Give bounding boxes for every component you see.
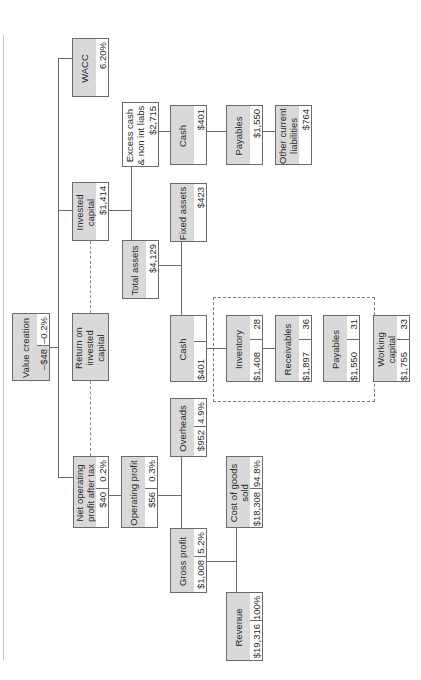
node-value: $56 [145,489,158,528]
connector [263,131,275,132]
node-other-current-liabilities: Other current liabilities $764 [275,105,312,165]
node-label: Operating profit [122,457,145,528]
connector [50,347,58,348]
node-value: $40 [96,489,109,528]
page-edge-line [3,35,4,660]
connector [159,131,170,132]
node-label: Invested capital [73,183,96,241]
node-label: Value creation [13,314,37,381]
connector [236,528,237,592]
node-days: 36 [299,316,312,340]
node-nopat: Net operating profit after tax $400.2% [73,456,109,528]
connector [58,477,73,478]
node-label: Inventory [227,316,250,382]
node-wacc: WACC 6.20% [72,38,109,97]
node-cash-operating: Cash $401 [170,315,207,382]
connector [109,210,131,211]
node-fixed-assets: Fixed assets $423 [170,183,207,242]
dotted-connector [90,381,91,456]
node-label: Other current liabilities [276,106,299,165]
node-value: $764 [299,106,312,165]
node-value: 2.8% [106,314,109,381]
node-value: $1,755 [397,340,410,382]
node-overheads: Overheads $9524.9% [170,398,207,457]
node-label: Fixed assets [171,184,194,242]
node-label: Overheads [171,399,194,457]
node-label: Payables [227,106,250,165]
node-days: 28 [250,316,263,340]
node-value: $2,715 [146,103,159,167]
node-cost-of-goods-sold: Cost of goods sold $18,30894.8% [226,456,263,528]
node-label: WACC [73,39,96,97]
connector [58,210,72,211]
connector [131,167,132,240]
node-roic: Return on invested capital 2.8% [72,313,109,381]
node-pct: –0.2% [37,314,50,346]
node-value: $423 [194,184,207,242]
connector [159,265,181,266]
node-value: $1,550 [347,340,360,382]
node-value: $1,414 [96,183,109,241]
connector [181,242,182,315]
node-label: Cost of goods sold [227,457,250,528]
node-value: $401 [194,106,207,165]
node-label: Revenue [227,593,250,661]
connector [158,495,181,496]
connector [109,495,121,496]
node-label: Working capital [374,316,397,382]
node-payables-wc: Payables $1,55031 [323,315,360,382]
node-value: $4,129 [146,241,159,299]
connector [58,58,72,59]
node-total-assets: Total assets $4,129 [122,240,159,299]
node-pct: 0.3% [145,457,158,489]
connector [207,131,226,132]
node-value: $952 [194,427,207,457]
node-cash-excess: Cash $401 [170,105,207,165]
node-value: $1,897 [299,340,312,382]
node-pct: 4.9% [194,399,207,427]
connector [181,457,182,528]
node-value: $1,550 [250,106,263,165]
node-revenue: Revenue $19,316100% [226,592,263,661]
dotted-connector [90,241,91,313]
node-label: Return on invested capital [73,314,106,381]
node-label: Cash [171,106,194,165]
node-label: Payables [324,316,347,382]
node-working-capital: Working capital $1,75533 [373,315,410,382]
node-pct: 100% [250,593,263,621]
node-gross-profit: Gross profit $1,0085.2% [170,528,207,593]
node-label: Cash [171,316,194,382]
node-payables-liab: Payables $1,550 [226,105,263,165]
connector [207,561,236,562]
node-value: $1,008 [194,557,207,593]
node-label: Excess cash & non int liabs [123,103,146,167]
node-invested-capital: Invested capital $1,414 [72,182,109,241]
node-value: $18,308 [250,489,263,528]
node-label: Receivables [276,316,299,382]
node-operating-profit: Operating profit $560.3% [121,456,158,528]
node-value-creation: Value creation –$48–0.2% [12,313,50,381]
node-days: 31 [347,316,360,340]
node-label: Net operating profit after tax [74,457,96,528]
connector-trunk [58,58,59,478]
node-value: $19,316 [250,621,263,661]
node-pct: 0.2% [96,457,109,489]
node-excess-cash: Excess cash & non int liabs $2,715 [122,102,159,167]
node-pct: 5.2% [194,529,207,557]
node-value: $401 [194,342,207,382]
node-value: $1,408 [250,340,263,382]
node-pct: 94.8% [250,457,263,489]
node-label: Total assets [123,241,146,299]
node-label: Gross profit [171,529,194,593]
node-inventory: Inventory $1,40828 [226,315,263,382]
node-days: 33 [397,316,410,340]
node-value: –$48 [37,346,50,381]
node-value: 6.20% [96,39,109,97]
node-receivables: Receivables $1,89736 [275,315,312,382]
